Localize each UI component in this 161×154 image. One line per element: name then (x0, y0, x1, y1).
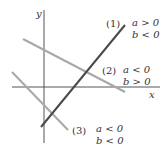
line-2-cond-b: b > 0 (123, 76, 151, 87)
line-1-cond-b: b < 0 (132, 29, 160, 40)
line-3-cond-b: b < 0 (96, 135, 124, 146)
line-2-tag: (2) (102, 65, 116, 76)
line-3 (12, 72, 68, 130)
y-axis-label: y (35, 8, 42, 19)
line-1-cond-a: a > 0 (132, 17, 160, 28)
line-1-tag: (1) (106, 18, 120, 29)
line-3-tag: (3) (72, 125, 86, 136)
diagram-canvas: y x (1) a > 0 b < 0 (2) a < 0 b > 0 (3) … (0, 0, 161, 154)
line-1 (41, 25, 125, 127)
x-axis-label: x (149, 89, 155, 100)
line-3-cond-a: a < 0 (96, 123, 124, 134)
line-2-cond-a: a < 0 (123, 64, 151, 75)
